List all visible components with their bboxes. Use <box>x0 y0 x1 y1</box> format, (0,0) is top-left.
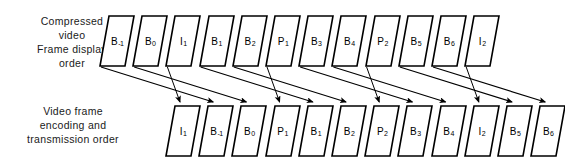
arrow-diagonal <box>101 67 213 102</box>
arrow-diagonal <box>433 67 545 102</box>
frame-outline <box>498 106 532 156</box>
frame-transmission-3: P1 <box>266 106 300 156</box>
frame-transmission-2: B0 <box>232 106 266 156</box>
frame-transmission-5: B2 <box>332 106 366 156</box>
frame-transmission-10: B5 <box>498 106 532 156</box>
frame-display-10: B6 <box>432 16 466 66</box>
frame-outline <box>465 16 499 66</box>
frame-outline <box>531 106 565 156</box>
frame-outline <box>100 16 134 66</box>
frame-transmission-11: B6 <box>531 106 565 156</box>
frame-transmission-9: I2 <box>465 106 499 156</box>
arrow-diagonal <box>201 67 313 102</box>
frame-display-1: B0 <box>133 16 167 66</box>
arrow-diagonal <box>134 67 246 102</box>
frame-transmission-1: B-1 <box>199 106 233 156</box>
frame-outline <box>199 106 233 156</box>
frame-outline <box>432 106 466 156</box>
frame-outline <box>266 106 300 156</box>
frame-outline <box>232 106 266 156</box>
arrow-diagonal <box>234 67 346 102</box>
arrow-vertical <box>267 67 280 102</box>
frame-display-11: I2 <box>465 16 499 66</box>
frame-outline <box>465 106 499 156</box>
frame-outline <box>332 106 366 156</box>
frame-display-3: B1 <box>200 16 234 66</box>
frame-transmission-7: B3 <box>398 106 432 156</box>
frame-transmission-0: I1 <box>166 106 200 156</box>
arrow-diagonal <box>400 67 512 102</box>
frame-outline <box>266 16 300 66</box>
frame-display-7: B4 <box>332 16 366 66</box>
frame-outline <box>432 16 466 66</box>
arrow-vertical <box>466 67 479 102</box>
frame-outline <box>299 106 333 156</box>
frame-outline <box>332 16 366 66</box>
frame-outline <box>200 16 234 66</box>
frame-display-0: B-1 <box>100 16 134 66</box>
frame-outline <box>233 16 267 66</box>
frame-transmission-4: B1 <box>299 106 333 156</box>
frame-outline <box>299 16 333 66</box>
frame-outline <box>133 16 167 66</box>
arrow-diagonal <box>333 67 445 102</box>
frame-outline <box>366 16 400 66</box>
frame-display-2: I1 <box>166 16 200 66</box>
arrow-diagonal <box>300 67 412 102</box>
frame-outline <box>398 106 432 156</box>
frame-outline <box>166 16 200 66</box>
frame-display-8: P2 <box>366 16 400 66</box>
frame-outline <box>166 106 200 156</box>
transmission-order-label: Video frame encoding and transmission or… <box>2 104 144 146</box>
frame-display-5: P1 <box>266 16 300 66</box>
frame-transmission-8: B4 <box>432 106 466 156</box>
frame-display-9: B5 <box>399 16 433 66</box>
arrow-vertical <box>367 67 380 102</box>
frame-outline <box>365 106 399 156</box>
frame-transmission-6: P2 <box>365 106 399 156</box>
frame-display-6: B3 <box>299 16 333 66</box>
arrow-vertical <box>167 67 180 102</box>
frame-display-4: B2 <box>233 16 267 66</box>
frame-outline <box>399 16 433 66</box>
